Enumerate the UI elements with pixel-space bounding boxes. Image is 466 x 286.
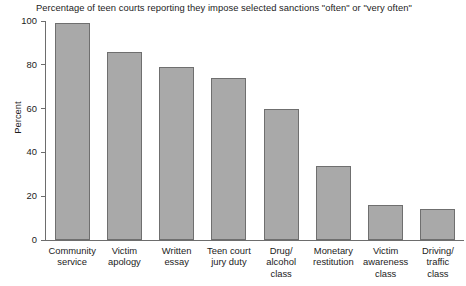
- y-axis-tick-label: 40: [27, 146, 37, 158]
- x-axis-tick-label: Teen court jury duty: [203, 245, 255, 268]
- bar: [107, 52, 142, 240]
- y-axis-tick-label: 20: [27, 190, 37, 202]
- x-axis-tick-label: Monetary restitution: [307, 245, 359, 268]
- y-axis-tick: 40: [0, 146, 46, 158]
- y-axis-tick: 0: [0, 234, 46, 246]
- bar: [211, 78, 246, 240]
- plot-area: [46, 21, 464, 240]
- bar: [264, 109, 299, 240]
- bar: [159, 67, 194, 240]
- bar-chart-figure: Percentage of teen courts reporting they…: [0, 0, 466, 286]
- y-axis-tick: 80: [0, 59, 46, 71]
- y-axis-tick-label: 60: [27, 103, 37, 115]
- y-axis-tick-label: 80: [27, 59, 37, 71]
- bar: [368, 205, 403, 240]
- bar: [316, 166, 351, 240]
- x-axis-tick-label: Victim awareness class: [360, 245, 412, 279]
- y-axis-tick-label: 100: [21, 15, 37, 27]
- x-axis-tick-label: Driving/ traffic class: [412, 245, 464, 279]
- y-axis-label: Percent: [12, 88, 23, 148]
- y-axis-tick: 100: [0, 15, 46, 27]
- bar: [55, 23, 90, 240]
- x-axis-tick-label: Written essay: [151, 245, 203, 268]
- chart-title: Percentage of teen courts reporting they…: [36, 2, 464, 14]
- x-axis-tick-label: Drug/ alcohol class: [255, 245, 307, 279]
- y-axis-tick: 60: [0, 103, 46, 115]
- y-axis-tick-label: 0: [32, 234, 37, 246]
- bar: [420, 209, 455, 240]
- x-axis-tick-label: Community service: [46, 245, 98, 268]
- y-axis-tick: 20: [0, 190, 46, 202]
- x-axis-tick-label: Victim apology: [98, 245, 150, 268]
- x-axis-line: [45, 240, 464, 241]
